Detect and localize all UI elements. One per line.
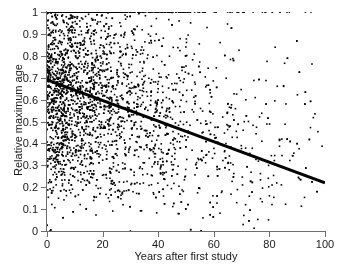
y-axis-line: [46, 11, 47, 232]
y-axis-tick: [41, 34, 46, 35]
y-axis-tick: [41, 231, 46, 232]
x-axis-tick: [47, 232, 48, 237]
x-axis-tick-label: 20: [88, 238, 118, 250]
y-axis-tick: [41, 122, 46, 123]
x-axis-tick-label: 80: [254, 238, 284, 250]
y-axis-tick: [41, 100, 46, 101]
x-axis-tick: [158, 232, 159, 237]
x-axis-line: [46, 231, 326, 232]
x-axis-title: Years after first study: [47, 250, 325, 262]
y-axis-title: Relative maximum age: [12, 10, 24, 230]
x-axis-tick-label: 60: [199, 238, 229, 250]
scatter-canvas: [47, 12, 325, 231]
plot-area: [47, 12, 325, 231]
y-axis-tick: [41, 143, 46, 144]
y-axis-tick: [41, 78, 46, 79]
x-axis-tick: [214, 232, 215, 237]
x-axis-tick: [325, 232, 326, 237]
y-axis-tick: [41, 165, 46, 166]
y-axis-tick: [41, 56, 46, 57]
y-axis-tick: [41, 187, 46, 188]
y-axis-tick: [41, 209, 46, 210]
x-axis-tick-label: 0: [32, 238, 62, 250]
x-axis-tick-label: 40: [143, 238, 173, 250]
y-axis-tick: [41, 12, 46, 13]
x-axis-tick: [103, 232, 104, 237]
x-axis-tick-label: 100: [310, 238, 338, 250]
x-axis-tick: [269, 232, 270, 237]
